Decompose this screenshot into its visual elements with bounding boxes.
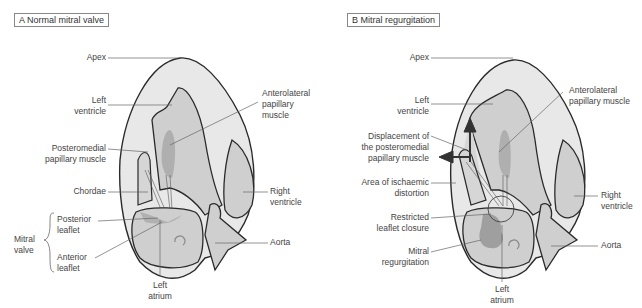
- label-left-atrium: Left atrium: [145, 280, 175, 302]
- label-posterior-leaflet: Posterior leaflet: [57, 214, 91, 236]
- label-posteromedial-papillary-muscle: Posteromedial papillary muscle: [20, 143, 106, 165]
- panel-mitral-regurgitation: B Mitral regurgitation: [321, 0, 642, 308]
- label-ischaemic-distortion: Area of ischaemic distortion: [329, 177, 429, 199]
- label-left-ventricle: Left ventricle: [58, 95, 106, 117]
- posteromedial-papillary-muscle: [138, 153, 152, 206]
- label-apex: Apex: [68, 52, 106, 63]
- label-apex: Apex: [391, 52, 429, 63]
- arrow-left-icon: [439, 151, 453, 163]
- mitral-valve-brace: [44, 213, 54, 272]
- label-anterolateral-papillary-muscle: Anterolateral papillary muscle: [262, 88, 310, 121]
- label-restricted-leaflet-closure: Restricted leaflet closure: [329, 212, 429, 234]
- label-aorta: Aorta: [270, 237, 290, 248]
- label-right-ventricle: Right ventricle: [601, 190, 633, 212]
- panel-normal-mitral-valve: A Normal mitral valve: [0, 0, 321, 308]
- label-anterolateral-papillary-muscle: Anterolateral papillary muscle: [569, 85, 630, 107]
- label-mitral-regurgitation: Mitral regurgitation: [329, 246, 429, 268]
- label-left-atrium: Left atrium: [487, 284, 517, 306]
- label-right-ventricle: Right ventricle: [270, 186, 302, 208]
- label-anterior-leaflet: Anterior leaflet: [57, 252, 87, 274]
- label-chordae: Chordae: [50, 186, 106, 197]
- label-aorta: Aorta: [601, 240, 621, 251]
- label-displacement-posteromedial: Displacement of the posteromedial papill…: [329, 131, 429, 164]
- label-mitral-valve: Mitral valve: [14, 234, 35, 256]
- label-left-ventricle: Left ventricle: [381, 95, 429, 117]
